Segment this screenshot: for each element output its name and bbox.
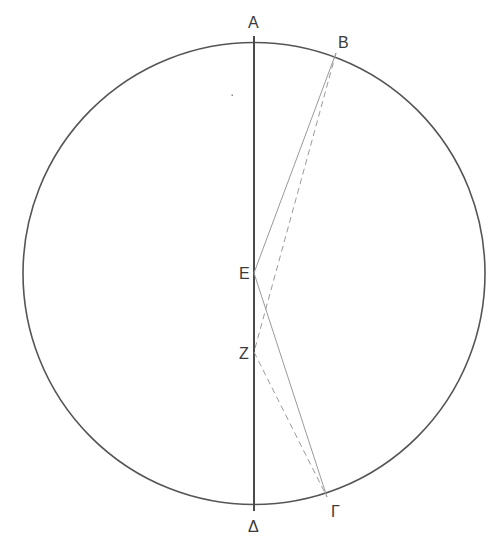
label-e: E (239, 265, 250, 282)
segment-z-gamma-dashed (254, 352, 327, 497)
label-gamma: Γ (331, 503, 340, 520)
label-b: B (338, 34, 349, 51)
label-z: Z (239, 345, 249, 362)
segment-b-z-dashed (254, 53, 336, 352)
label-a: A (248, 14, 259, 31)
label-delta: Δ (248, 518, 259, 535)
speck (232, 95, 234, 97)
segment-b-e (254, 53, 336, 273)
segment-e-gamma (254, 273, 327, 497)
geometry-diagram: A B E Z Δ Γ (0, 0, 500, 548)
